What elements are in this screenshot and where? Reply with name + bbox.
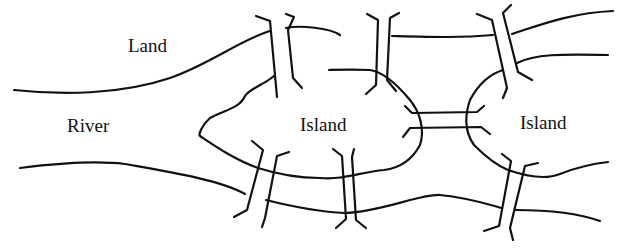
shoreline-north-channel-top (392, 35, 493, 37)
label-land: Land (128, 36, 167, 55)
bridge-center-bottom (403, 127, 490, 137)
label-island-right: Island (520, 113, 566, 132)
bridge-south-left (234, 141, 289, 227)
shoreline-north-bank-right-lower (517, 55, 608, 63)
label-island-left: Island (300, 115, 346, 134)
label-river: River (67, 116, 109, 135)
shoreline-south-bank-right (515, 210, 600, 221)
bridge-south-mid (333, 149, 366, 228)
shoreline-south-bank-mid (266, 195, 502, 213)
shoreline-north-bank-mid (286, 27, 340, 35)
bridge-north-right (477, 5, 532, 98)
bridge-south-right (484, 154, 538, 240)
shoreline-north-bank-right-upper (512, 11, 613, 34)
shoreline-south-bank-left (20, 163, 245, 194)
